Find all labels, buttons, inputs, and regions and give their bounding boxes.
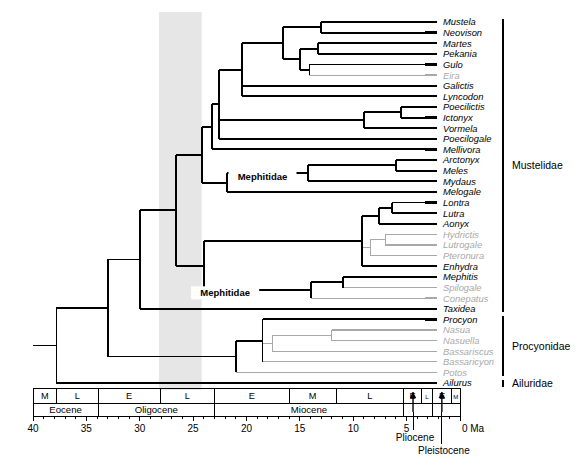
subdivision-label: L	[75, 391, 80, 401]
taxon-label: Ictonyx	[443, 112, 473, 123]
taxon-label: Mustela	[443, 16, 476, 27]
phylogeny-figure: MustelaNeovisonMartesPekaniaGuloEiraGali…	[0, 0, 585, 458]
oligocene-highlight-band	[159, 12, 202, 390]
taxon-label: Taxidea	[443, 303, 476, 314]
taxon-label: Melogale	[443, 186, 481, 197]
subdivision-label: L	[185, 391, 190, 401]
taxon-label: Neovison	[443, 27, 482, 38]
axis-tick-label: 40	[27, 423, 39, 434]
taxon-label: Nasuella	[443, 335, 479, 346]
taxon-label: Hydrictis	[443, 229, 479, 240]
pliocene-callout-label: Pliocene	[396, 432, 435, 443]
subdivision-label: E	[249, 391, 255, 401]
epoch-label: Eocene	[49, 404, 82, 415]
taxon-label: Lyncodon	[443, 91, 484, 102]
axis-tick-label: 25	[188, 423, 200, 434]
taxon-label: Conepatus	[443, 293, 489, 304]
subdivision-label: L	[425, 394, 429, 400]
timescale-frame	[33, 388, 460, 416]
taxon-label: Ailurus	[442, 377, 472, 388]
epoch-label: Miocene	[291, 404, 327, 415]
taxon-label: Lutrogale	[443, 239, 482, 250]
tree-canvas: MustelaNeovisonMartesPekaniaGuloEiraGali…	[0, 0, 585, 458]
pleistocene-callout-label: Pleistocene	[418, 445, 470, 456]
subdivision-label: M	[41, 391, 49, 401]
axis-tick-label: 10	[348, 423, 360, 434]
subdivision-label: M	[453, 394, 458, 400]
axis-tick-label: 30	[134, 423, 146, 434]
taxon-label: Pteronura	[443, 250, 484, 261]
taxon-label: Mellivora	[443, 144, 481, 155]
taxon-label: Lontra	[443, 197, 470, 208]
taxon-label: Galictis	[443, 80, 474, 91]
taxon-label: Poecilogale	[443, 133, 491, 144]
taxon-label: Martes	[443, 38, 472, 49]
family-label: Ailuridae	[512, 377, 553, 389]
subdivision-label: M	[309, 391, 317, 401]
clade-label: Mephitidae	[238, 171, 288, 182]
taxon-label: Vormela	[443, 123, 478, 134]
axis-tick-label: 15	[294, 423, 306, 434]
taxon-label: Arctonyx	[442, 154, 480, 165]
family-label: Procyonidae	[512, 340, 571, 352]
taxon-label: Spilogale	[443, 282, 482, 293]
taxon-label: Bassariscus	[443, 346, 494, 357]
axis-unit-label: 0 Ma	[462, 423, 485, 434]
subdivision-label: E	[126, 391, 132, 401]
taxon-label: Gulo	[443, 59, 463, 70]
family-label: Mustelidae	[512, 159, 563, 171]
subdivision-label: L	[367, 391, 372, 401]
epoch-label: Oligocene	[135, 404, 178, 415]
taxon-label: Procyon	[443, 314, 477, 325]
taxon-label: Mephitis	[443, 271, 478, 282]
taxon-label: Pekania	[443, 48, 477, 59]
taxon-label: Potos	[443, 367, 467, 378]
taxon-label: Aonyx	[442, 218, 469, 229]
taxon-label: Bassaricyon	[443, 356, 494, 367]
taxon-label: Meles	[443, 165, 468, 176]
taxon-label: Mydaus	[443, 176, 476, 187]
axis-tick-label: 20	[241, 423, 253, 434]
taxon-label: Poecilictis	[443, 101, 485, 112]
clade-label: Mephitidae	[200, 287, 250, 298]
taxon-label: Eira	[443, 70, 460, 81]
taxon-label: Enhydra	[443, 261, 478, 272]
axis-tick-label: 35	[81, 423, 93, 434]
taxon-label: Lutra	[443, 208, 464, 219]
taxon-label: Nasua	[443, 324, 470, 335]
